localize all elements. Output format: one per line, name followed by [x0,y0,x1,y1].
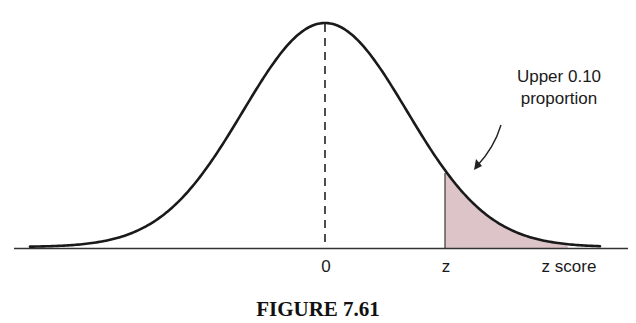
x-axis-label: z score [542,257,597,276]
figure-caption: FIGURE 7.61 [256,297,380,321]
normal-distribution-figure: Upper 0.10 proportion 0 z z score FIGURE… [0,0,636,323]
upper-tail-shaded-area [445,170,568,248]
tick-label-z: z [442,257,451,276]
annotation-line-1: Upper 0.10 [517,67,601,86]
normal-curve [30,23,600,247]
annotation-line-2: proportion [521,89,598,108]
arrow-head-icon [474,159,482,170]
tick-label-zero: 0 [321,257,330,276]
annotation-arrow [477,125,501,166]
